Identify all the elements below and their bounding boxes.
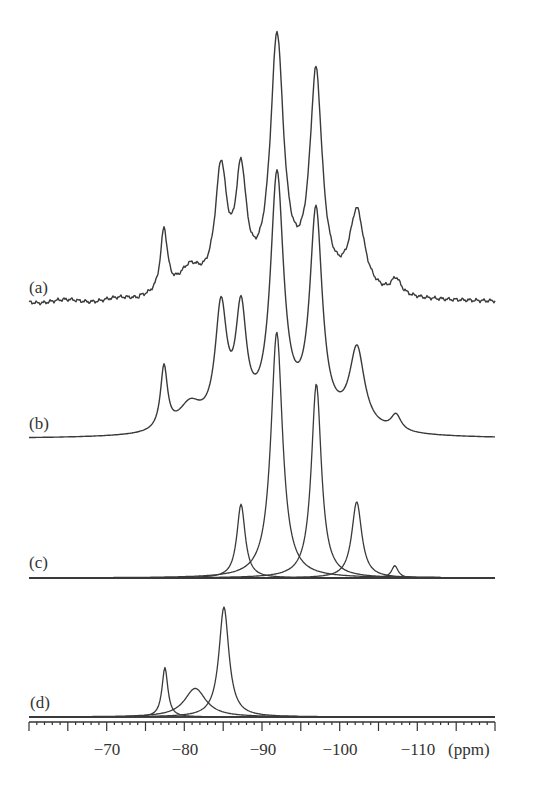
tick-label-70: −70 [94, 740, 121, 760]
tick-label-90: −90 [250, 740, 277, 760]
trace-label-c: (c) [29, 553, 48, 573]
tick-label-110: −110 [401, 740, 435, 760]
x-axis [29, 722, 495, 731]
nmr-spectra-plot [0, 0, 551, 795]
trace-label-a: (a) [29, 278, 48, 298]
trace-label-b: (b) [29, 414, 49, 434]
x-axis-unit-label: (ppm) [448, 740, 490, 760]
tick-label-80: −80 [172, 740, 199, 760]
tick-label-100: −100 [322, 740, 357, 760]
spectra-traces [29, 32, 495, 718]
trace-label-d: (d) [30, 693, 50, 713]
